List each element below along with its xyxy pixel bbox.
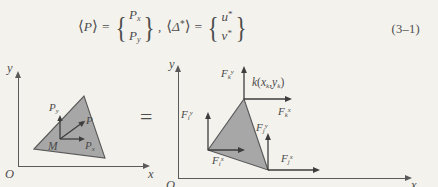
equation-3-1: ⟨ P ⟩ = { Px Py } , ⟨ Δ* ⟩ = { u*	[78, 8, 248, 45]
right-y-axis-label: y	[169, 57, 175, 72]
label-node-k-coords: k(xk,yk)	[252, 76, 284, 90]
lhs-components: Px Py	[128, 8, 142, 45]
label-force-Py: Py	[49, 101, 59, 114]
right-figure-panel: y x O k(xk,yk) Fky Fkx Fiy Fix Fjy	[168, 58, 436, 187]
equation-row: ⟨ P ⟩ = { Px Py } , ⟨ Δ* ⟩ = { u*	[0, 2, 438, 58]
left-figure-panel: y x O Py P Px M	[2, 58, 162, 187]
rhs-components: u* v*	[221, 10, 234, 42]
right-origin-label: O	[166, 178, 175, 187]
label-force-k-y: Fky	[221, 67, 234, 80]
right-x-axis-label: x	[411, 178, 417, 187]
label-force-P: P	[86, 114, 93, 127]
left-triangle-graphic	[2, 58, 162, 187]
left-x-axis-label: x	[148, 167, 154, 182]
equals-operator-1: =	[98, 20, 114, 34]
right-y-axis-arrow-icon	[175, 65, 181, 72]
equals-operator-2: =	[191, 20, 207, 34]
rhs-column-vector: { u* v* }	[206, 10, 248, 42]
equation-comma: ,	[156, 20, 166, 33]
rhs-component-u: u*	[222, 10, 233, 23]
label-force-j-y: Fjy	[256, 121, 268, 134]
lhs-vector-symbol: P	[84, 20, 92, 34]
left-x-axis	[18, 166, 144, 167]
lhs-column-vector: { Px Py }	[114, 8, 156, 45]
right-x-axis	[178, 178, 406, 179]
right-y-axis	[178, 72, 179, 179]
label-force-k-x: Fkx	[278, 105, 291, 118]
rhs-vector-symbol: Δ*	[172, 20, 185, 34]
right-brace-open-icon: {	[208, 13, 219, 40]
equation-number: (3–1)	[391, 22, 420, 37]
label-force-Px: Px	[85, 139, 95, 152]
equals-sign-between-figures: =	[140, 104, 152, 130]
right-brace-close-icon: }	[235, 13, 246, 40]
left-brace-close-icon: }	[143, 13, 154, 40]
left-y-axis-label: y	[7, 61, 13, 76]
label-force-i-x: Fix	[212, 154, 224, 167]
label-force-j-x: Fjx	[281, 152, 293, 165]
left-origin-label: O	[5, 167, 14, 182]
rhs-component-v: v*	[222, 29, 233, 42]
figure-page: ⟨ P ⟩ = { Px Py } , ⟨ Δ* ⟩ = { u*	[0, 0, 438, 187]
right-triangle-graphic	[168, 58, 436, 187]
label-force-i-y: Fiy	[181, 108, 193, 121]
figure-row: y x O Py P Px M =	[0, 58, 438, 187]
lhs-component-px: Px	[129, 8, 141, 23]
left-y-axis	[18, 78, 19, 167]
label-node-M: M	[48, 140, 58, 152]
lhs-component-py: Py	[129, 29, 141, 44]
left-y-axis-arrow-icon	[15, 71, 21, 78]
left-brace-open-icon: {	[115, 13, 126, 40]
